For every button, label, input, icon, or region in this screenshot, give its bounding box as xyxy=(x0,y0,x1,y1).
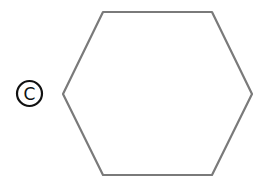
hexagon-shape xyxy=(0,0,269,192)
